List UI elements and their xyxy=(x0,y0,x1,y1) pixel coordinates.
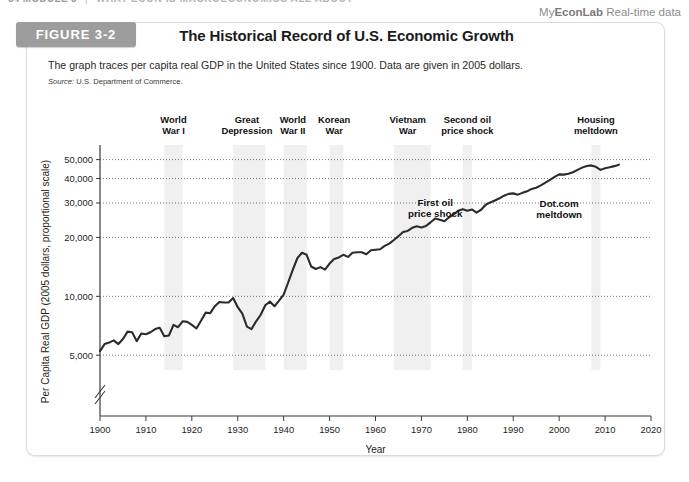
event-label: World xyxy=(160,114,187,125)
chart-plot-area: 5,00010,00020,00030,00040,00050,00019001… xyxy=(27,85,666,453)
x-tick-label: 1950 xyxy=(319,424,340,435)
inplot-annotation: Dot.com xyxy=(540,198,579,209)
figure-card: FIGURE 3-2 The Historical Record of U.S.… xyxy=(26,22,665,456)
y-tick-label: 40,000 xyxy=(64,173,93,184)
y-tick-label: 20,000 xyxy=(64,232,93,243)
brand-my: My xyxy=(539,6,554,18)
event-label: World xyxy=(280,114,307,125)
page-number: 64 xyxy=(8,0,20,4)
myeconlab-branding: MyEconLab Real-time data xyxy=(539,6,681,18)
event-label: War I xyxy=(162,125,185,136)
y-tick-label: 30,000 xyxy=(64,197,93,208)
inplot-annotation: meltdown xyxy=(536,209,582,220)
event-label: Housing xyxy=(577,114,615,125)
event-label: meltdown xyxy=(574,125,618,136)
x-tick-label: 2000 xyxy=(549,424,570,435)
event-label: price shock xyxy=(441,125,494,136)
module-label: MODULE 3 xyxy=(23,0,77,4)
y-tick-label: 10,000 xyxy=(64,291,93,302)
event-shading-band xyxy=(463,145,472,370)
x-tick-label: 1910 xyxy=(135,424,156,435)
x-tick-label: 1940 xyxy=(273,424,294,435)
figure-subtitle: The graph traces per capita real GDP in … xyxy=(48,59,648,71)
x-tick-label: 1980 xyxy=(457,424,478,435)
event-shading-band xyxy=(233,145,265,370)
header-separator: | xyxy=(85,0,88,4)
x-tick-label: 1900 xyxy=(90,424,111,435)
module-title: WHAT ECON IS MACROECONOMICS ALL ABOUT xyxy=(96,0,353,4)
event-label: Great xyxy=(235,114,260,125)
x-tick-label: 1960 xyxy=(365,424,386,435)
x-tick-label: 2010 xyxy=(595,424,616,435)
event-label: War II xyxy=(280,125,305,136)
x-tick-label: 1990 xyxy=(503,424,524,435)
y-tick-label: 50,000 xyxy=(64,154,93,165)
growth-line-chart: 5,00010,00020,00030,00040,00050,00019001… xyxy=(27,85,666,453)
brand-lab: Lab xyxy=(583,6,603,18)
x-axis-title: Year xyxy=(365,444,386,453)
event-label: Vietnam xyxy=(389,114,425,125)
figure-title: The Historical Record of U.S. Economic G… xyxy=(27,27,666,44)
x-tick-label: 1930 xyxy=(227,424,248,435)
brand-econ: Econ xyxy=(554,6,582,18)
realtime-data-tagline: Real-time data xyxy=(606,6,681,18)
event-label: Second oil xyxy=(444,114,491,125)
x-tick-label: 2020 xyxy=(641,424,662,435)
inplot-annotation: First oil xyxy=(417,197,453,208)
y-axis-title: Per Capita Real GDP (2005 dollars, propo… xyxy=(40,160,51,403)
event-label: War xyxy=(399,125,417,136)
event-label: Depression xyxy=(221,125,272,136)
event-label: Korean xyxy=(318,114,351,125)
inplot-annotation: price shock xyxy=(408,208,463,219)
x-tick-label: 1920 xyxy=(181,424,202,435)
y-tick-label: 5,000 xyxy=(70,350,93,361)
x-tick-label: 1970 xyxy=(411,424,432,435)
event-label: War xyxy=(325,125,343,136)
